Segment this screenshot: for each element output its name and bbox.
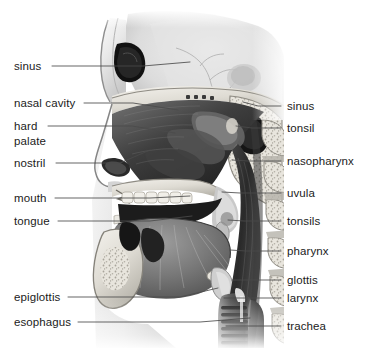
label-trachea: trachea bbox=[287, 320, 326, 333]
label-epiglottis: epiglottis bbox=[14, 291, 60, 304]
label-nasal-cavity: nasal cavity bbox=[14, 97, 75, 110]
label-hard: hard bbox=[14, 120, 37, 133]
label-mouth: mouth bbox=[14, 192, 46, 205]
label-nostril: nostril bbox=[14, 157, 45, 170]
label-tonsils: tonsils bbox=[287, 215, 320, 228]
label-tongue: tongue bbox=[14, 215, 50, 228]
label-esophagus: esophagus bbox=[14, 316, 71, 329]
label-glottis: glottis bbox=[287, 274, 318, 287]
label-sinus: sinus bbox=[14, 60, 41, 73]
sagittal-section-illustration bbox=[0, 0, 370, 361]
anatomical-figure: sinus nasal cavity hard palate nostril m… bbox=[0, 0, 370, 361]
label-sinus-right: sinus bbox=[287, 100, 314, 113]
label-pharynx: pharynx bbox=[287, 245, 329, 258]
label-larynx: larynx bbox=[287, 292, 318, 305]
label-tonsil: tonsil bbox=[287, 122, 314, 135]
label-uvula: uvula bbox=[287, 187, 315, 200]
label-palate: palate bbox=[14, 135, 46, 148]
label-nasopharynx: nasopharynx bbox=[287, 155, 354, 168]
